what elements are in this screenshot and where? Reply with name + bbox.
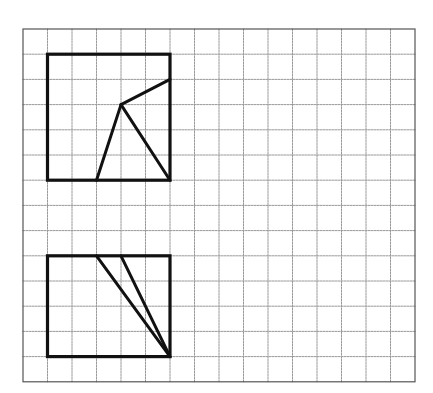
figure-segment (97, 105, 122, 181)
figure-rectangle (48, 54, 171, 180)
grid-diagram (0, 0, 433, 393)
graph-paper-grid (23, 29, 415, 382)
upper-figure (48, 54, 171, 180)
